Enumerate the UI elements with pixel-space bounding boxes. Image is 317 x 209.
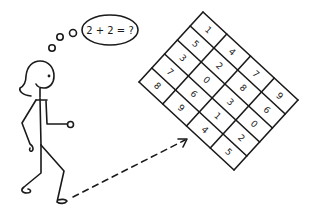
thought-trail [49,30,77,52]
grid-cell-digit: 7 [250,68,261,79]
grid-cell-digit: 8 [152,80,163,91]
right-arm [46,101,67,124]
grid-cell-digit: 6 [188,88,199,99]
grid-cell-digit: 0 [249,118,260,129]
grid-cell-digit: 9 [274,90,285,101]
back-leg [22,145,41,193]
thought-trail-circle [57,34,63,40]
grid-cell-digit: 4 [227,46,238,57]
thought-trail-circle [49,45,55,51]
left-arm [22,100,36,151]
grid-cell-digit: 4 [199,124,210,135]
arrow-line [73,140,185,197]
thought-trail-circle [70,30,77,37]
illustration: 2 + 2 = ? 14795286303076128945 [0,0,317,209]
front-leg [41,145,67,203]
grid-cell-digit: 5 [223,146,234,157]
dashed-arrow [73,139,187,197]
grid-cell-digit: 2 [236,132,247,143]
grid-cell-digit: 8 [238,82,249,93]
grid-cell-digit: 0 [201,74,212,85]
stick-figure [20,61,74,203]
torso [40,98,41,145]
grid-cell-digit: 3 [177,52,188,63]
thought-text: 2 + 2 = ? [86,25,134,36]
grid-cell-digit: 3 [225,96,236,107]
grid-cell-digit: 2 [214,60,225,71]
grid-cell-digit: 1 [203,24,214,35]
thought-bubble: 2 + 2 = ? [49,15,138,51]
right-hand-icon [68,122,74,128]
grid-cell-digit: 5 [190,38,201,49]
grid-cell-digit: 1 [212,110,223,121]
eye-icon [48,75,51,78]
grid-cell-digit: 9 [176,102,187,113]
head-icon [20,61,54,97]
number-grid: 14795286303076128945 [139,12,298,170]
grid-cell-digit: 7 [165,66,176,77]
grid-cell-digit: 6 [261,104,272,115]
arrowhead-icon [178,139,187,147]
